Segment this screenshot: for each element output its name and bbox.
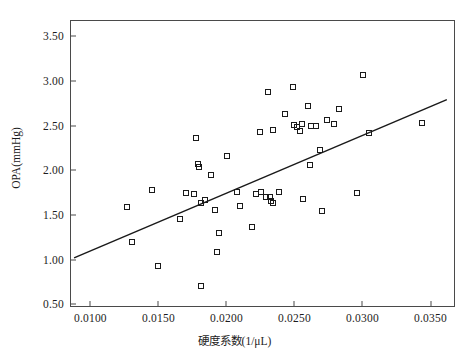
x-axis-title: 硬度系数(1/μL) <box>0 332 469 348</box>
data-point-marker <box>191 191 197 197</box>
data-point-marker <box>214 249 220 255</box>
data-point-marker <box>149 187 155 193</box>
x-tick-label: 0.0300 <box>346 312 379 324</box>
x-tick-label: 0.0200 <box>210 312 243 324</box>
data-point-marker <box>234 189 240 195</box>
data-point-marker <box>300 196 306 202</box>
x-tick-mark <box>362 301 363 307</box>
x-tick-mark <box>294 301 295 307</box>
data-point-marker <box>290 84 296 90</box>
y-tick-mark <box>70 36 76 37</box>
y-tick-mark <box>70 304 76 305</box>
data-point-marker <box>237 203 243 209</box>
data-point-marker <box>216 230 222 236</box>
data-point-marker <box>208 172 214 178</box>
data-point-marker <box>324 117 330 123</box>
data-point-marker <box>265 89 271 95</box>
y-tick-mark <box>70 214 76 215</box>
data-point-marker <box>155 263 161 269</box>
data-point-marker <box>183 190 189 196</box>
data-point-marker <box>366 130 372 136</box>
x-tick-mark <box>430 301 431 307</box>
data-point-marker <box>270 200 276 206</box>
data-point-marker <box>319 208 325 214</box>
chart-figure: 0.501.001.502.002.503.003.50 0.01000.015… <box>0 0 469 361</box>
y-tick-mark <box>70 170 76 171</box>
plot-data-area <box>70 20 455 307</box>
y-axis-title: OPA(mmHg) <box>10 98 22 218</box>
regression-line-layer <box>70 20 455 307</box>
data-point-marker <box>331 121 337 127</box>
data-point-marker <box>282 111 288 117</box>
x-tick-label: 0.0250 <box>278 312 311 324</box>
data-point-marker <box>129 239 135 245</box>
data-point-marker <box>249 224 255 230</box>
data-point-marker <box>196 164 202 170</box>
data-point-marker <box>202 197 208 203</box>
x-tick-label: 0.0100 <box>74 312 107 324</box>
x-tick-label: 0.0150 <box>142 312 175 324</box>
data-point-marker <box>360 72 366 78</box>
data-point-marker <box>198 283 204 289</box>
data-point-marker <box>354 190 360 196</box>
data-point-marker <box>124 204 130 210</box>
data-point-marker <box>307 162 313 168</box>
data-point-marker <box>317 147 323 153</box>
y-tick-mark <box>70 80 76 81</box>
data-point-marker <box>193 135 199 141</box>
regression-line <box>74 100 447 258</box>
data-point-marker <box>419 120 425 126</box>
y-tick-mark <box>70 259 76 260</box>
x-tick-label: 0.0350 <box>414 312 447 324</box>
data-point-marker <box>336 106 342 112</box>
data-point-marker <box>313 123 319 129</box>
data-point-marker <box>224 153 230 159</box>
data-point-marker <box>276 189 282 195</box>
data-point-marker <box>212 207 218 213</box>
x-tick-mark <box>90 301 91 307</box>
x-tick-mark <box>226 301 227 307</box>
data-point-marker <box>297 128 303 134</box>
y-tick-mark <box>70 125 76 126</box>
data-point-marker <box>270 127 276 133</box>
data-point-marker <box>299 121 305 127</box>
x-tick-mark <box>158 301 159 307</box>
data-point-marker <box>305 103 311 109</box>
data-point-marker <box>257 129 263 135</box>
data-point-marker <box>177 216 183 222</box>
